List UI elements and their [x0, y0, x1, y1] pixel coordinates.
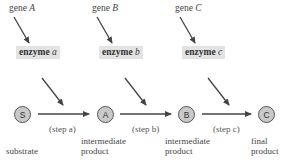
- gene-c-label: gene C: [175, 3, 202, 13]
- enzyme-c-box: enzyme c: [182, 46, 225, 59]
- enzyme-b-box: enzyme b: [99, 46, 143, 59]
- step-c-label: (step c): [213, 124, 240, 134]
- gene-a-label: gene A: [9, 3, 35, 13]
- enzyme-b-arrow: [125, 78, 146, 105]
- enzyme-a-box: enzyme a: [16, 46, 60, 59]
- substrate-label: substrate: [6, 146, 38, 156]
- gene-a-arrow: [14, 17, 29, 43]
- gene-b-label: gene B: [92, 3, 118, 13]
- pathway-arrows: [0, 0, 289, 160]
- gene-c-arrow: [180, 17, 195, 43]
- gene-b-arrow: [97, 17, 112, 43]
- node-substrate-s: S: [14, 106, 31, 123]
- step-b-label: (step b): [132, 124, 159, 134]
- node-final-c: C: [258, 106, 275, 123]
- node-intermediate-b: B: [178, 106, 195, 123]
- node-intermediate-a: A: [97, 106, 114, 123]
- intermediate-b-label: intermediate product: [165, 136, 210, 156]
- intermediate-a-label: intermediate product: [81, 136, 126, 156]
- enzyme-c-arrow: [208, 78, 229, 105]
- final-product-label: final product: [251, 136, 279, 156]
- enzyme-a-arrow: [42, 78, 63, 105]
- step-a-label: (step a): [49, 124, 76, 134]
